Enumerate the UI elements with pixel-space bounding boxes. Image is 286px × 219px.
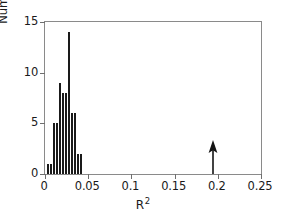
histogram-figure: Number of cases R2 05101500.050.10.150.2…: [0, 0, 286, 219]
y-axis-tick-label: 5: [0, 115, 38, 129]
plot-frame: [44, 21, 262, 175]
x-axis-label-superscript: 2: [145, 196, 150, 206]
x-axis-tick-label: 0.05: [75, 179, 100, 193]
y-axis-tick-label: 15: [0, 14, 38, 28]
x-axis-tick-label: 0.25: [248, 179, 273, 193]
y-axis-tick-label: 0: [0, 166, 38, 180]
x-axis-tick-label: 0.2: [208, 179, 226, 193]
observed-value-arrow-icon: [205, 140, 221, 174]
y-axis-tick: [40, 123, 45, 124]
plot-area: [45, 22, 261, 174]
histogram-bar: [80, 154, 83, 174]
x-axis-label: R2: [0, 196, 286, 212]
x-axis-tick-label: 0: [40, 179, 47, 193]
x-axis-tick-label: 0.1: [122, 179, 140, 193]
y-axis-tick: [40, 22, 45, 23]
x-axis-label-text: R: [136, 198, 144, 212]
x-axis-tick-label: 0.15: [161, 179, 186, 193]
y-axis-tick: [40, 73, 45, 74]
y-axis-tick-label: 10: [0, 65, 38, 79]
